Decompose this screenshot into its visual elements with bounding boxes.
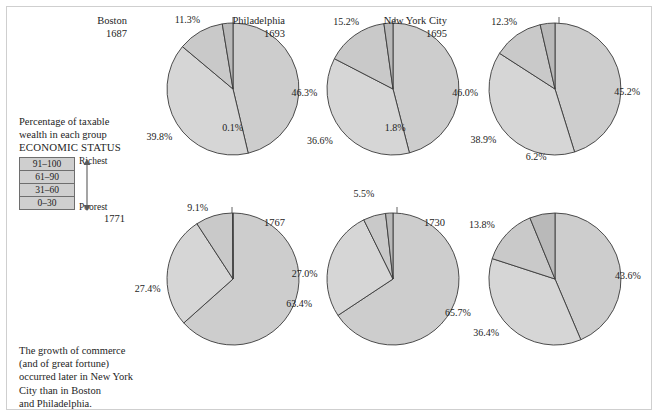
- pie-label-0–30: 1.8%: [385, 122, 406, 133]
- pie-title-philadelphia-1693: Philadelphia 1693: [195, 15, 285, 40]
- economic-status-label: ECONOMIC STATUS: [19, 141, 121, 153]
- pie-label-61–90: 39.8%: [146, 130, 172, 141]
- pie-title-1771: 1771: [35, 213, 125, 226]
- legend-gradient-arrow-icon: [81, 159, 93, 211]
- pie-label-0–30: 6.2%: [526, 151, 547, 162]
- legend-band-91-100: 91–100: [19, 157, 75, 171]
- pie-label-61–90: 38.9%: [471, 133, 497, 144]
- pie-title-1730: 1730: [355, 217, 445, 230]
- pie-label-61–90: 27.4%: [135, 282, 161, 293]
- pie-label-31–60: 13.8%: [469, 219, 495, 230]
- legend-band-61-90: 61–90: [19, 170, 75, 184]
- pie-label-31–60: 5.5%: [353, 188, 374, 199]
- pie-label-31–60: 12.3%: [491, 15, 517, 26]
- pie-title-1767: 1767: [195, 217, 285, 230]
- pie-label-91–100: 43.6%: [615, 270, 641, 281]
- figure-frame: Percentage of taxable wealth in each gro…: [6, 6, 652, 410]
- caption-top: Percentage of taxable wealth in each gro…: [19, 115, 109, 141]
- caption-bottom: The growth of commerce (and of great for…: [19, 344, 133, 410]
- pie-label-31–60: 15.2%: [333, 15, 359, 26]
- pie-label-61–90: 36.4%: [473, 327, 499, 338]
- pie-label-31–60: 9.1%: [187, 202, 208, 213]
- pie-chart-1730: 43.6%36.4%13.8%6.2%: [459, 183, 651, 375]
- pie-chart-new-york-city-1695: 45.2%38.9%12.3%3.6%: [459, 0, 651, 185]
- legend-band-0-30: 0–30: [19, 196, 75, 210]
- pie-label-61–90: 27.0%: [292, 267, 318, 278]
- legend-band-31-60: 31–60: [19, 183, 75, 197]
- pie-label-91–100: 45.2%: [614, 86, 640, 97]
- pie-title-boston-1687: Boston 1687: [37, 15, 127, 40]
- pie-label-0–30: 0.1%: [222, 122, 243, 133]
- legend: 91–100 61–90 31–60 0–30: [19, 157, 75, 209]
- pie-title-new-york-city-1695: New York City 1695: [357, 15, 447, 40]
- pie-label-61–90: 36.6%: [307, 134, 333, 145]
